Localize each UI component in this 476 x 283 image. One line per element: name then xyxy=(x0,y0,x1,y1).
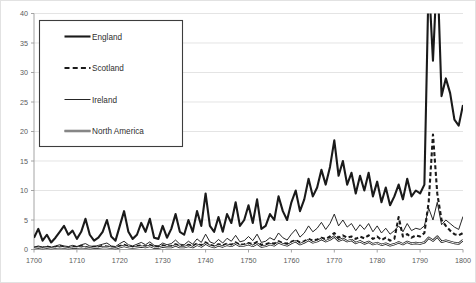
y-tick-label-20: 20 xyxy=(20,127,28,136)
legend-label-ireland: Ireland xyxy=(92,96,117,105)
x-tick-label-1800: 1800 xyxy=(455,256,471,265)
chart-legend: EnglandScotlandIrelandNorth America xyxy=(40,21,183,147)
y-tick-label-15: 15 xyxy=(20,157,28,166)
series-line-scotland xyxy=(34,134,463,247)
y-axis-tick-labels: 0510152025303540 xyxy=(20,9,28,254)
x-tick-label-1770: 1770 xyxy=(326,256,342,265)
y-tick-label-40: 40 xyxy=(20,9,28,18)
y-tick-label-10: 10 xyxy=(20,186,28,195)
x-tick-label-1720: 1720 xyxy=(112,256,128,265)
y-tick-label-30: 30 xyxy=(20,68,28,77)
x-tick-label-1740: 1740 xyxy=(198,256,214,265)
x-tick-label-1730: 1730 xyxy=(155,256,171,265)
y-tick-label-35: 35 xyxy=(20,39,28,48)
x-axis-tick-labels: 1700171017201730174017501760177017801790… xyxy=(26,256,471,265)
y-tick-label-5: 5 xyxy=(24,216,28,225)
chart-canvas: 0510152025303540 17001710172017301740175… xyxy=(1,1,476,283)
x-tick-label-1750: 1750 xyxy=(241,256,257,265)
legend-label-england: England xyxy=(92,33,122,42)
x-tick-label-1700: 1700 xyxy=(26,256,42,265)
y-tick-label-25: 25 xyxy=(20,98,28,107)
chart-figure: 0510152025303540 17001710172017301740175… xyxy=(0,0,476,283)
legend-label-scotland: Scotland xyxy=(92,64,124,73)
x-tick-label-1760: 1760 xyxy=(283,256,299,265)
y-tick-label-0: 0 xyxy=(24,245,28,254)
x-tick-label-1710: 1710 xyxy=(69,256,85,265)
x-tick-label-1790: 1790 xyxy=(412,256,428,265)
legend-label-north-america: North America xyxy=(92,127,144,136)
x-tick-label-1780: 1780 xyxy=(369,256,385,265)
